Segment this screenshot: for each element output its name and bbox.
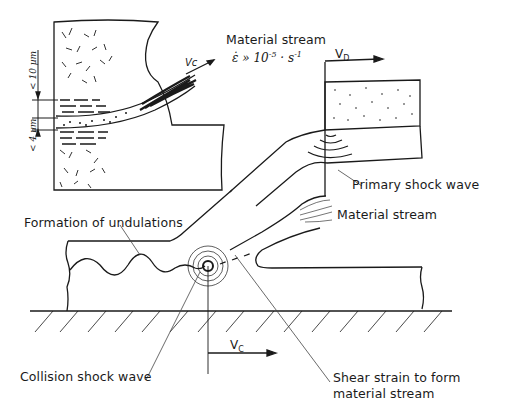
label-formation-of-undulations: Formation of undulations [24,215,183,230]
vc-sub: C [238,345,244,354]
strain-rate-formula: ε̇ » 10-5 · s-1 [232,50,302,65]
label-vc-inset: Vc [185,57,197,68]
label-scale-upper: < 10 µm [28,51,38,90]
label-vc: VC [230,338,244,354]
label-shear-strain-line1: Shear strain to form [333,370,461,385]
strain-rate-unit-exp: -1 [294,50,302,59]
strain-rate-base: 10 [253,51,268,65]
explosive-charge-dots [333,87,413,121]
inset-microstructure [32,20,224,190]
label-vd: VD [335,47,349,63]
label-scale-lower: < 4 µm [28,119,38,152]
strain-rate-unit: · s [280,51,294,65]
label-primary-shock-wave: Primary shock wave [352,177,479,192]
primary-shock-arcs [308,135,352,158]
label-shear-strain-line2: material stream [333,386,434,401]
strain-rate-symbol: ε̇ [232,51,238,65]
vd-sub: D [343,54,349,63]
label-material-stream-top: Material stream [226,32,326,47]
vc-letter: V [230,338,238,352]
strain-rate-relation: » [242,51,249,65]
label-material-stream-right: Material stream [337,207,437,222]
label-collision-shock-wave: Collision shock wave [20,369,151,384]
strain-rate-exp: -5 [269,50,277,59]
vd-letter: V [335,47,343,61]
